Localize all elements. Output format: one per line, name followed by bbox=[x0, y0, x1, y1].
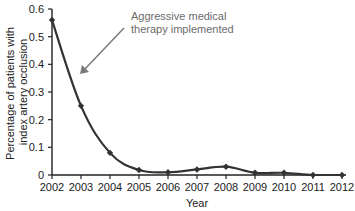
y-tick-label: 0.4 bbox=[29, 58, 44, 70]
y-tick-label: 0.1 bbox=[29, 141, 44, 153]
x-axis: 2002200320042005200620072008200920102011… bbox=[40, 175, 354, 193]
x-tick-label: 2011 bbox=[301, 181, 325, 193]
y-tick-label: 0.2 bbox=[29, 114, 44, 126]
x-tick-label: 2002 bbox=[40, 181, 64, 193]
annotation-text-line: therapy implemented bbox=[131, 23, 234, 35]
line-chart: 00.10.20.30.40.50.6 20022003200420052006… bbox=[0, 0, 355, 211]
x-tick-label: 2005 bbox=[127, 181, 151, 193]
data-series bbox=[49, 17, 345, 178]
x-tick-label: 2007 bbox=[185, 181, 209, 193]
x-tick-label: 2008 bbox=[214, 181, 238, 193]
x-axis-title: Year bbox=[186, 197, 209, 209]
data-point-marker bbox=[49, 17, 55, 23]
data-point-marker bbox=[78, 103, 84, 109]
y-tick-label: 0.6 bbox=[29, 3, 44, 15]
series-line bbox=[52, 20, 342, 175]
y-axis: 00.10.20.30.40.50.6 bbox=[29, 3, 52, 181]
annotation-text-line: Aggressive medical bbox=[131, 10, 226, 22]
y-tick-label: 0.3 bbox=[29, 86, 44, 98]
x-tick-label: 2010 bbox=[272, 181, 296, 193]
y-axis-title-line-2: index artery occlusion bbox=[17, 39, 29, 145]
x-tick-label: 2009 bbox=[243, 181, 267, 193]
data-point-marker bbox=[136, 167, 142, 173]
x-tick-label: 2006 bbox=[156, 181, 180, 193]
x-tick-label: 2004 bbox=[98, 181, 122, 193]
annotation-arrow-line bbox=[84, 28, 124, 70]
annotation: Aggressive medicaltherapy implemented bbox=[80, 10, 234, 74]
x-tick-label: 2003 bbox=[69, 181, 93, 193]
data-point-marker bbox=[223, 164, 229, 170]
x-tick-label: 2012 bbox=[330, 181, 354, 193]
y-tick-label: 0 bbox=[38, 169, 44, 181]
y-axis-title-line-1: Percentage of patients with bbox=[4, 27, 16, 160]
y-tick-label: 0.5 bbox=[29, 31, 44, 43]
y-axis-title: Percentage of patients with index artery… bbox=[4, 24, 29, 160]
data-point-marker bbox=[339, 172, 345, 178]
data-point-marker bbox=[310, 172, 316, 178]
data-point-marker bbox=[194, 166, 200, 172]
